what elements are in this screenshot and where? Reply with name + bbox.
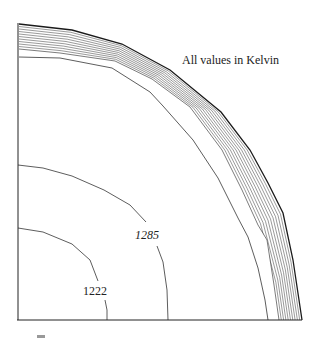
temperature-contour-diagram: All values in Kelvin 1285 1222 (0, 0, 316, 338)
isotherm-1285-lower (157, 246, 168, 320)
isotherm-1222-lower (105, 300, 107, 320)
isotherm-1222-upper (18, 228, 98, 281)
hatch-isotherm (19, 44, 284, 320)
band-inner-edge (19, 49, 279, 320)
hatch-isotherm (19, 34, 293, 320)
isotherm-1285-upper (18, 165, 146, 222)
contour-label-1285: 1285 (135, 228, 159, 242)
units-annotation: All values in Kelvin (182, 53, 279, 67)
contour-label-1222: 1222 (83, 284, 107, 298)
hatch-isotherm (19, 39, 288, 320)
hatch-isotherm (19, 42, 286, 321)
hatch-isotherm (19, 29, 297, 320)
isotherm-inner (19, 57, 268, 320)
hatch-isotherm (19, 47, 281, 321)
hatch-isotherm (19, 32, 295, 321)
